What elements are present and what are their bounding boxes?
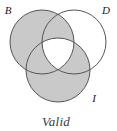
set-label-d: D (101, 4, 110, 16)
set-label-b: B (5, 4, 12, 16)
venn-diagram-svg: B D I Valid (0, 0, 117, 131)
venn-diagram-figure: B D I Valid (0, 0, 117, 131)
figure-caption: Valid (42, 114, 70, 129)
